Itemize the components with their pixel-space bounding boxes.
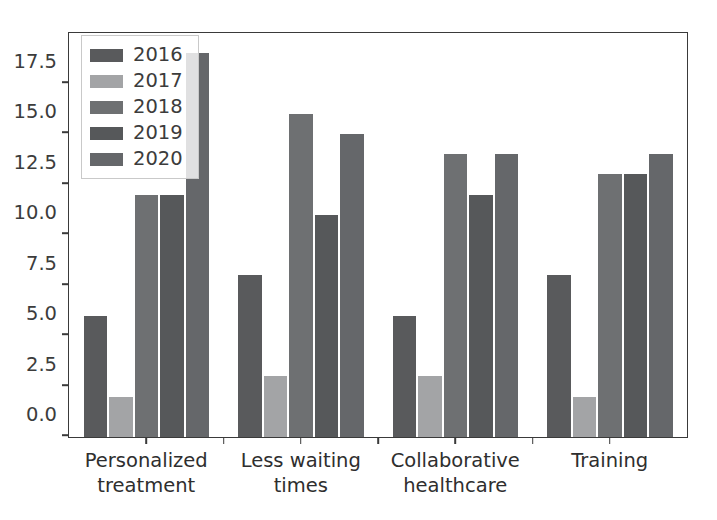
legend-item-label: 2020 [133, 149, 183, 169]
legend-swatch-icon [90, 49, 123, 62]
x-axis-tick-mark [609, 437, 611, 444]
y-axis-tick-label: 12.5 [14, 150, 69, 173]
y-axis-tick-label: 17.5 [14, 49, 69, 72]
bar [264, 376, 288, 437]
bar [495, 154, 519, 437]
legend-item[interactable]: 2016 [90, 42, 190, 68]
y-axis-tick-mark [62, 182, 69, 184]
legend-swatch-icon [90, 75, 123, 88]
y-axis-tick-mark [62, 233, 69, 235]
y-axis-tick-mark [62, 132, 69, 134]
bar [289, 114, 313, 437]
legend-item-label: 2017 [133, 71, 183, 91]
y-axis-tick-mark [62, 283, 69, 285]
y-axis-tick-label: 5.0 [26, 302, 69, 325]
chart-legend: 20162017201820192020 [81, 35, 199, 179]
x-axis-minor-tick-mark [377, 437, 379, 444]
legend-item[interactable]: 2019 [90, 120, 190, 146]
legend-item[interactable]: 2018 [90, 94, 190, 120]
y-axis-tick-mark [62, 435, 69, 437]
x-axis-tick-mark [300, 437, 302, 444]
bar-chart-figure: 0.02.55.07.510.012.515.017.5 Personalize… [0, 0, 717, 520]
plot-area: 0.02.55.07.510.012.515.017.5 Personalize… [68, 32, 688, 438]
legend-swatch-icon [90, 153, 123, 166]
bar [238, 275, 262, 437]
y-axis-tick-label: 0.0 [26, 403, 69, 426]
x-axis-tick-mark [454, 437, 456, 444]
legend-item[interactable]: 2020 [90, 146, 190, 172]
bar [649, 154, 673, 437]
y-axis-tick-mark [62, 384, 69, 386]
x-axis-tick-label: Training [510, 449, 710, 474]
legend-item[interactable]: 2017 [90, 68, 190, 94]
bar [573, 397, 597, 437]
y-axis-tick-label: 15.0 [14, 100, 69, 123]
legend-swatch-icon [90, 101, 123, 114]
legend-swatch-icon [90, 127, 123, 140]
bar [340, 134, 364, 437]
x-axis-tick-mark [145, 437, 147, 444]
bar [84, 316, 108, 437]
bar [135, 195, 159, 437]
x-axis-minor-tick-mark [223, 437, 225, 444]
bar [418, 376, 442, 437]
bar [393, 316, 417, 437]
y-axis-tick-label: 10.0 [14, 201, 69, 224]
bar [598, 174, 622, 437]
legend-item-label: 2018 [133, 97, 183, 117]
y-axis-tick-label: 2.5 [26, 352, 69, 375]
bar [547, 275, 571, 437]
x-axis-minor-tick-mark [532, 437, 534, 444]
y-axis-tick-mark [62, 334, 69, 336]
bar [315, 215, 339, 437]
y-axis-tick-label: 7.5 [26, 251, 69, 274]
bar [444, 154, 468, 437]
bar [469, 195, 493, 437]
bar [160, 195, 184, 437]
legend-item-label: 2019 [133, 123, 183, 143]
bar [109, 397, 133, 437]
bar [624, 174, 648, 437]
legend-item-label: 2016 [133, 45, 183, 65]
y-axis-tick-mark [62, 81, 69, 83]
